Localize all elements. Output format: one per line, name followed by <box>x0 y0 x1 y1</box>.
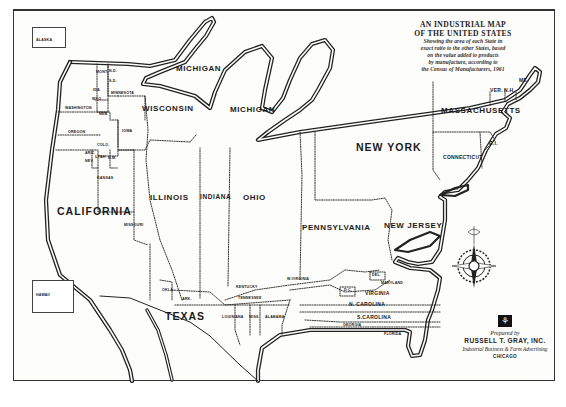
credit-block: ⚘ Prepared by RUSSELL T. GRAY, INC. Indu… <box>450 315 560 360</box>
state-north-carolina: N. CAROLINA <box>349 302 385 307</box>
state-oregon: OREGON <box>68 131 85 135</box>
subtitle-line-1: Showing the area of each State in <box>368 38 558 45</box>
title-line-2: OF THE UNITED STATES <box>368 29 558 38</box>
hawaii-label: HAWAII <box>36 294 50 298</box>
state-tennessee: TENNESSEE <box>238 297 262 301</box>
rg-logo-icon: ⚘ <box>498 315 512 327</box>
company-city: CHICAGO <box>450 353 560 360</box>
compass-rose-icon <box>452 226 496 288</box>
state-new-york: NEW YORK <box>356 142 422 153</box>
state-iowa: IOWA <box>122 130 132 134</box>
state-texas: TEXAS <box>165 311 205 322</box>
state-colorado: COLO. <box>97 144 109 148</box>
state-arizona: ARIZ. <box>85 152 95 156</box>
prepared-by: Prepared by <box>450 329 560 337</box>
state-georgia: GEORGIA <box>343 324 361 328</box>
state-new-hampshire: N.H. <box>504 88 515 93</box>
state-south-dakota: S.D. <box>109 80 117 84</box>
subtitle-line-5: the Census of Manufacturers, 1961 <box>368 66 558 73</box>
map-title-block: AN INDUSTRIAL MAP OF THE UNITED STATES S… <box>368 20 558 73</box>
state-arkansas: ARK. <box>182 298 192 302</box>
state-maine: ME. <box>519 78 529 83</box>
state-florida: FLORIDA <box>384 333 401 337</box>
state-louisiana: LOUISIANA <box>222 316 244 320</box>
state-oklahoma: OKLA. <box>162 289 174 293</box>
hawaii-inset: HAWAII <box>32 280 74 313</box>
state-rhode-island: R.I. <box>489 141 498 146</box>
state-south-carolina: S.CAROLINA <box>357 315 391 320</box>
state-nevada: NEV. <box>85 160 94 164</box>
state-maryland: MARYLAND <box>381 282 403 286</box>
state-virginia: VIRGINIA <box>365 291 390 296</box>
state-new-mexico: N.M. <box>108 157 116 161</box>
state-mississippi: MISS. <box>249 316 260 320</box>
state-washington: WASHINGTON <box>65 107 92 111</box>
state-indiana: INDIANA <box>200 194 231 201</box>
state-kentucky: KENTUCKY <box>236 286 258 290</box>
state-north-dakota: N.D. <box>109 70 117 74</box>
state-utah: UTAH <box>95 156 106 160</box>
state-connecticut: CONNECTICUT <box>443 155 483 160</box>
state-idaho: IDA. <box>93 89 101 93</box>
state-michigan: MICHIGAN <box>230 106 275 114</box>
state-pennsylvania: PENNSYLVANIA <box>302 224 371 232</box>
state-west-virginia: W.VIRGINIA <box>287 278 309 282</box>
state-delaware: DEL. <box>372 274 381 278</box>
state-california: CALIFORNIA <box>57 206 132 217</box>
state-montana: MONT. <box>96 71 108 75</box>
alaska-label: ALASKA <box>36 39 52 43</box>
state-wisconsin: WISCONSIN <box>142 105 194 113</box>
state-dc: D.C. <box>344 289 352 293</box>
state-wyoming: WYO. <box>92 98 102 102</box>
state-minnesota: MINNESOTA <box>111 92 134 96</box>
state-michigan-upper: MICHIGAN <box>176 65 221 73</box>
state-vermont: VER. <box>490 88 503 93</box>
state-alabama: ALABAMA <box>265 316 285 320</box>
state-missouri: MISSOURI <box>124 224 143 228</box>
state-new-jersey: NEW JERSEY <box>384 222 442 230</box>
state-ohio: OHIO <box>243 194 266 202</box>
title-line-1: AN INDUSTRIAL MAP <box>368 20 558 29</box>
alaska-inset: ALASKA <box>32 27 66 48</box>
state-illinois: ILLINOIS <box>150 194 189 202</box>
state-nebraska: NEB. <box>99 113 108 117</box>
state-kansas: KANSAS <box>97 177 113 181</box>
state-massachusetts: MASSACHUSETTS <box>441 107 521 115</box>
subtitle-line-4: by manufacture, according to <box>368 59 558 66</box>
subtitle-line-2: exact ratio to the other States, based <box>368 45 558 52</box>
company-tagline: Industrial Business & Farm Advertising <box>450 345 560 353</box>
company-name: RUSSELL T. GRAY, INC. <box>450 337 560 345</box>
subtitle-line-3: on the value added to products <box>368 52 558 59</box>
